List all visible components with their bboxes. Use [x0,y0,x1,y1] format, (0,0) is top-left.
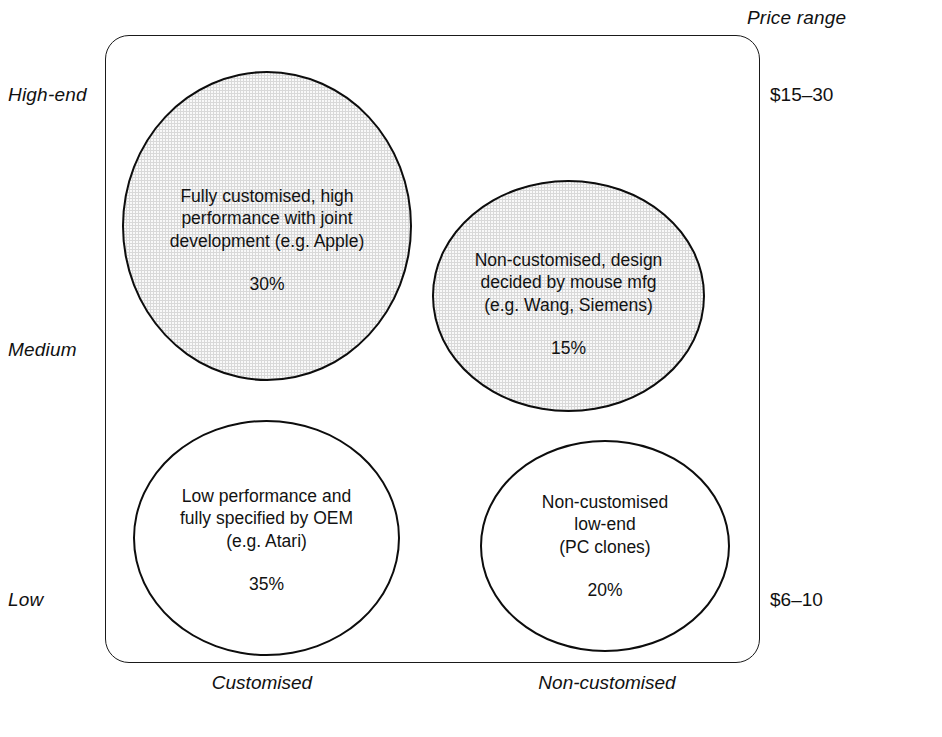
bubble-non-customised-design-by-mouse-mfg: Non-customised, design decided by mouse … [432,180,705,412]
y-axis-label-low: Low [8,589,43,611]
bubble-percent: 30% [249,274,284,295]
bubble-description: Low performance and fully specified by O… [174,485,359,553]
price-range-value-low: $6–10 [770,589,823,611]
chart-canvas: High-end Medium Low Price range $15–30 $… [0,0,942,737]
bubble-non-customised-low-end-pc-clones: Non-customised low-end (PC clones) 20% [480,440,730,652]
bubble-percent: 35% [249,574,284,595]
bubble-content: Fully customised, high performance with … [164,185,371,296]
x-axis-label-customised: Customised [212,672,312,694]
bubble-description: Non-customised, design decided by mouse … [469,249,669,317]
y-axis-label-medium: Medium [8,339,77,361]
price-range-axis-title: Price range [747,7,846,29]
bubble-content: Non-customised, design decided by mouse … [469,249,669,360]
bubble-description: Fully customised, high performance with … [164,185,371,253]
x-axis-label-non-customised: Non-customised [538,672,675,694]
bubble-percent: 20% [587,580,622,601]
price-range-value-high: $15–30 [770,84,833,106]
bubble-low-performance-specified-by-oem: Low performance and fully specified by O… [133,420,400,656]
bubble-content: Non-customised low-end (PC clones) 20% [536,491,674,602]
y-axis-label-high-end: High-end [8,84,87,106]
bubble-percent: 15% [551,338,586,359]
bubble-description: Non-customised low-end (PC clones) [536,491,674,559]
bubble-fully-customised-high-performance: Fully customised, high performance with … [122,71,412,381]
bubble-content: Low performance and fully specified by O… [174,485,359,596]
